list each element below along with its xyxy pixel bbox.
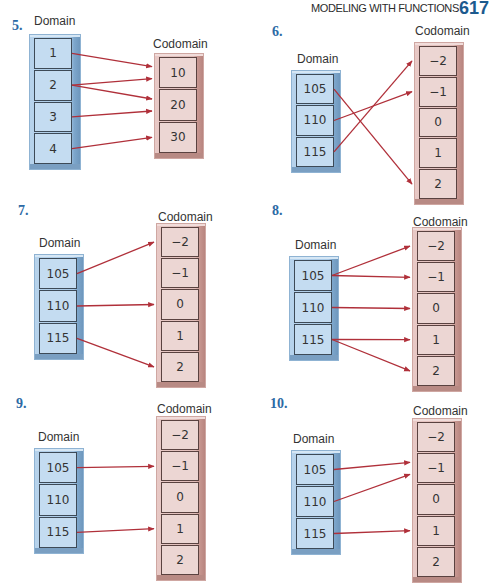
codomain-element: −1 (417, 262, 455, 292)
codomain-element: 1 (419, 138, 457, 168)
domain-element: 105 (294, 260, 332, 291)
codomain-element: 20 (159, 89, 197, 120)
domain-label: Domain (39, 236, 80, 250)
domain-element: 2 (34, 70, 72, 101)
codomain-set-box: −2−1012 (414, 42, 464, 205)
domain-element: 110 (296, 486, 334, 517)
domain-set-box: 105110115 (291, 450, 341, 555)
mapping-arrow (334, 462, 410, 469)
domain-label: Domain (293, 432, 334, 446)
codomain-element: −1 (419, 77, 457, 107)
mapping-arrow (77, 242, 154, 274)
mapping-arrow (72, 111, 152, 117)
mapping-arrow (332, 246, 410, 275)
codomain-element: −2 (419, 46, 457, 76)
codomain-set-box: 102030 (154, 53, 204, 159)
domain-element: 4 (34, 133, 72, 164)
domain-element: 115 (294, 324, 332, 355)
domain-set-box: 105110115 (291, 70, 341, 173)
mapping-arrow (77, 338, 154, 367)
codomain-set-box: −2−1012 (412, 418, 462, 583)
codomain-label: Codomain (158, 210, 213, 224)
mapping-arrow (77, 529, 154, 533)
domain-set-box: 105110115 (34, 254, 84, 360)
mapping-arrow (334, 92, 412, 121)
mapping-arrow (332, 308, 410, 309)
domain-element: 115 (39, 517, 77, 548)
codomain-element: 10 (159, 57, 197, 88)
codomain-set-box: −2−1012 (156, 223, 206, 388)
domain-element: 115 (296, 137, 334, 167)
codomain-element: 2 (417, 356, 455, 386)
codomain-element: 1 (417, 325, 455, 355)
codomain-element: 2 (419, 169, 457, 199)
mapping-arrow (72, 79, 152, 85)
exercise-number: 8. (272, 203, 283, 219)
codomain-element: 2 (417, 547, 455, 577)
exercise-number: 9. (16, 396, 27, 412)
mapping-arrow (334, 61, 412, 152)
mapping-arrow (77, 305, 154, 307)
domain-set-box: 105110115 (34, 448, 84, 554)
domain-element: 110 (39, 484, 77, 515)
codomain-element: 0 (161, 289, 199, 319)
codomain-element: 0 (417, 484, 455, 514)
codomain-label: Codomain (415, 24, 470, 38)
exercise-number: 7. (18, 203, 29, 219)
codomain-element: 0 (161, 482, 199, 512)
domain-set-box: 1234 (29, 34, 81, 170)
domain-element: 110 (294, 292, 332, 323)
domain-label: Domain (38, 430, 79, 444)
codomain-label: Codomain (153, 37, 208, 51)
mapping-arrow (334, 531, 410, 534)
exercise-number: 5. (12, 18, 23, 34)
domain-label: Domain (34, 14, 75, 28)
domain-element: 110 (296, 105, 334, 135)
domain-set-box: 105110115 (289, 256, 339, 361)
mapping-arrow (334, 89, 412, 184)
codomain-set-box: −2−1012 (412, 227, 462, 392)
mapping-arrow (332, 276, 410, 278)
mapping-arrow (332, 340, 410, 371)
codomain-element: −2 (161, 420, 199, 450)
page-number: 617 (459, 0, 489, 19)
codomain-element: 1 (161, 321, 199, 351)
domain-element: 105 (39, 258, 77, 289)
mapping-arrow (77, 466, 154, 467)
mapping-arrow (72, 85, 152, 99)
domain-element: 105 (296, 74, 334, 104)
codomain-set-box: −2−1012 (156, 416, 206, 581)
codomain-element: −2 (417, 231, 455, 261)
codomain-label: Codomain (413, 404, 468, 418)
codomain-element: −1 (161, 258, 199, 288)
domain-element: 115 (39, 323, 77, 354)
exercise-number: 10. (270, 396, 288, 412)
codomain-element: 0 (417, 293, 455, 323)
domain-element: 115 (296, 518, 334, 549)
codomain-element: 1 (161, 514, 199, 544)
mapping-arrow (72, 137, 152, 148)
running-header-title: MODELING WITH FUNCTIONS (311, 2, 459, 14)
domain-label: Domain (295, 238, 336, 252)
codomain-element: 2 (161, 352, 199, 382)
codomain-element: −2 (417, 422, 455, 452)
codomain-label: Codomain (157, 402, 212, 416)
domain-label: Domain (297, 52, 338, 66)
domain-element: 1 (34, 38, 72, 69)
domain-element: 105 (296, 454, 334, 485)
domain-element: 3 (34, 102, 72, 133)
codomain-element: 0 (419, 108, 457, 138)
codomain-element: −2 (161, 227, 199, 257)
exercise-number: 6. (272, 24, 283, 40)
codomain-element: 1 (417, 516, 455, 546)
mapping-arrow (72, 53, 152, 66)
codomain-element: 30 (159, 122, 197, 153)
domain-element: 105 (39, 452, 77, 483)
codomain-element: −1 (161, 451, 199, 481)
codomain-element: 2 (161, 545, 199, 575)
mapping-arrow (334, 474, 410, 501)
domain-element: 110 (39, 290, 77, 321)
codomain-element: −1 (417, 453, 455, 483)
